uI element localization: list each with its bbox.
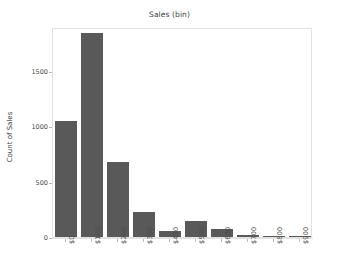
- x-axis-tick-label: $300: [146, 227, 154, 244]
- bar: [55, 121, 76, 237]
- x-axis-tick-mark: [299, 239, 300, 242]
- x-axis-tick-label: $0: [68, 235, 76, 244]
- bar-chart-figure: Sales (bin) Count of Sales 050010001500 …: [0, 0, 339, 280]
- x-axis-tick-mark: [247, 239, 248, 242]
- chart-title: Sales (bin): [0, 10, 339, 19]
- x-axis-tick-mark: [195, 239, 196, 242]
- y-axis-tick-mark: [49, 238, 52, 239]
- y-axis-tick-label: 1500: [6, 68, 48, 76]
- x-axis-tick-label: $100: [94, 227, 102, 244]
- plot-area: [52, 28, 312, 238]
- bars-layer: [53, 29, 311, 237]
- y-axis-tick-label: 0: [6, 234, 48, 242]
- x-axis-tick-label: $600: [224, 227, 232, 244]
- x-axis-tick-mark: [91, 239, 92, 242]
- x-axis-tick-mark: [221, 239, 222, 242]
- y-axis-tick-group: 050010001500: [0, 0, 48, 280]
- bar: [81, 33, 102, 237]
- x-axis-tick-mark: [65, 239, 66, 242]
- y-axis-tick-mark: [49, 72, 52, 73]
- x-axis-tick-mark: [143, 239, 144, 242]
- y-axis-tick-label: 500: [6, 179, 48, 187]
- x-axis-tick-label: $500: [198, 227, 206, 244]
- x-axis-tick-label: $900: [302, 227, 310, 244]
- x-axis-tick-label: $800: [276, 227, 284, 244]
- x-axis-tick-label: $400: [172, 227, 180, 244]
- x-axis-tick-label: $200: [120, 227, 128, 244]
- y-axis-tick-label: 1000: [6, 123, 48, 131]
- y-axis-tick-mark: [49, 183, 52, 184]
- x-axis-tick-mark: [169, 239, 170, 242]
- x-axis-tick-mark: [273, 239, 274, 242]
- x-axis-tick-label: $700: [250, 227, 258, 244]
- y-axis-tick-mark: [49, 127, 52, 128]
- x-axis-tick-mark: [117, 239, 118, 242]
